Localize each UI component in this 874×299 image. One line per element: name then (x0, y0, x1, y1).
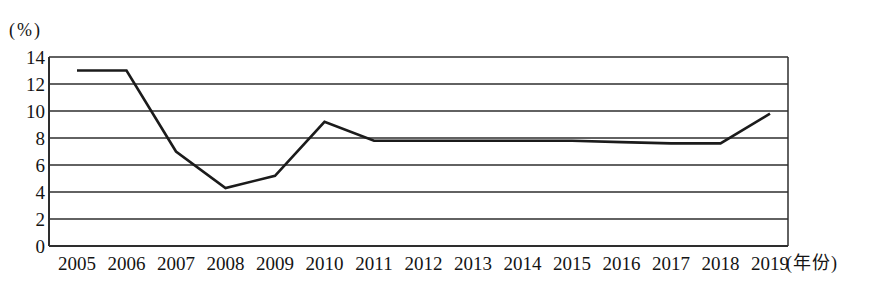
y-tick-label: 14 (0, 48, 45, 67)
x-tick-label: 2005 (52, 254, 102, 273)
x-tick-label: 2014 (498, 254, 548, 273)
x-axis-unit-label: (年份) (786, 254, 838, 272)
x-tick-label: 2013 (448, 254, 498, 273)
y-tick-label: 2 (0, 210, 45, 229)
x-tick-label: 2008 (201, 254, 251, 273)
y-tick-label: 12 (0, 75, 45, 94)
line-chart: (%) 02468101214 200520062007200820092010… (0, 0, 874, 299)
y-tick-label: 4 (0, 183, 45, 202)
y-tick-label: 6 (0, 156, 45, 175)
x-tick-label: 2016 (597, 254, 647, 273)
x-tick-label: 2017 (646, 254, 696, 273)
x-tick-label: 2007 (151, 254, 201, 273)
y-tick-label: 10 (0, 102, 45, 121)
data-series-line (77, 71, 770, 189)
x-tick-label: 2012 (399, 254, 449, 273)
x-tick-label: 2010 (300, 254, 350, 273)
y-tick-label: 0 (0, 237, 45, 256)
x-tick-label: 2009 (250, 254, 300, 273)
x-tick-label: 2006 (102, 254, 152, 273)
x-tick-label: 2018 (696, 254, 746, 273)
y-tick-label: 8 (0, 129, 45, 148)
x-tick-label: 2011 (349, 254, 399, 273)
x-tick-label: 2015 (547, 254, 597, 273)
